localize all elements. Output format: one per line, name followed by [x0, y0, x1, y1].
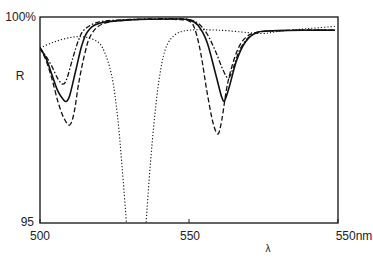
y-axis-label: R	[16, 69, 25, 83]
y-tick-label-100: 100%	[5, 10, 36, 24]
x-tick-label-500: 500	[30, 229, 50, 243]
y-tick-label-95: 95	[21, 215, 35, 229]
series-line-solid	[40, 19, 335, 102]
x-tick-label-550: 550	[180, 229, 200, 243]
series-line-dash-dot	[40, 19, 335, 85]
series-line-dotted	[40, 26, 335, 246]
x-tick-label-end: 550nm	[336, 229, 373, 243]
reflectance-chart: 100% 95 500 550 550nm R λ	[0, 0, 373, 258]
curves-group	[40, 19, 335, 247]
x-axis-label: λ	[266, 243, 271, 254]
plot-frame	[40, 17, 338, 223]
